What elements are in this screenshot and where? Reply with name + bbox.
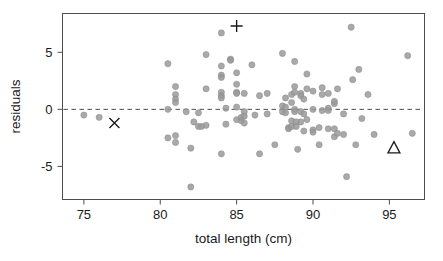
data-point (334, 130, 340, 136)
data-point (227, 57, 233, 63)
y-axis-tick-labels: -505 (41, 45, 53, 174)
x-marker-icon (109, 118, 119, 128)
data-point (234, 90, 240, 96)
plot-border (63, 14, 425, 200)
data-point (298, 119, 304, 125)
data-point (195, 110, 201, 116)
data-point (344, 174, 350, 180)
data-point (81, 112, 87, 118)
plot-canvas: 7580859095 -505 total length (cm) residu… (0, 0, 443, 261)
data-point (191, 119, 197, 125)
data-point (310, 129, 316, 135)
data-point (172, 139, 178, 145)
data-point (331, 98, 337, 104)
data-point (325, 107, 331, 113)
data-point (295, 146, 301, 152)
data-point (293, 123, 299, 129)
data-point (96, 114, 102, 120)
data-point (371, 131, 377, 137)
data-point (183, 109, 189, 115)
data-point (316, 125, 322, 131)
y-axis-title: residuals (8, 79, 23, 133)
data-point (252, 112, 258, 118)
x-tick-label: 85 (229, 207, 243, 222)
data-point (218, 151, 224, 157)
data-point (304, 86, 310, 92)
data-point (325, 90, 331, 96)
x-axis-title: total length (cm) (195, 231, 292, 246)
x-tick-label: 80 (153, 207, 167, 222)
data-point (365, 91, 371, 97)
data-point (289, 99, 295, 105)
data-point (172, 83, 178, 89)
data-point (241, 113, 247, 119)
residual-scatter-figure: 7580859095 -505 total length (cm) residu… (0, 0, 443, 261)
x-tick-label: 95 (382, 207, 396, 222)
data-point (282, 104, 288, 110)
data-point (304, 117, 310, 123)
data-point (218, 63, 224, 69)
data-point (264, 111, 270, 117)
data-point (359, 115, 365, 121)
data-point (292, 89, 298, 95)
data-point (241, 90, 247, 96)
data-point (409, 130, 415, 136)
data-point (272, 142, 278, 148)
data-point (292, 109, 298, 115)
data-point (319, 91, 325, 97)
y-tick-label: 0 (45, 102, 52, 117)
data-point (334, 86, 340, 92)
data-point (319, 107, 325, 113)
data-point (188, 145, 194, 151)
data-point (165, 135, 171, 141)
special-markers-group (109, 20, 399, 153)
data-point (256, 93, 262, 99)
data-point (348, 24, 354, 30)
data-point (223, 121, 229, 127)
data-point (350, 77, 356, 83)
y-tick-label: 5 (45, 45, 52, 60)
data-point (316, 142, 322, 148)
data-point (325, 126, 331, 132)
plus-marker-icon (231, 20, 243, 32)
data-point (188, 184, 194, 190)
data-point (203, 51, 209, 57)
data-point (264, 90, 270, 96)
data-point (234, 70, 240, 76)
x-axis-tick-labels: 7580859095 (77, 207, 397, 222)
y-tick-label: -5 (41, 159, 53, 174)
data-point (304, 71, 310, 77)
data-point (234, 104, 240, 110)
x-tick-label: 90 (306, 207, 320, 222)
data-point (301, 128, 307, 134)
data-point (172, 99, 178, 105)
data-point (234, 81, 240, 87)
data-point (203, 122, 209, 128)
data-point (292, 58, 298, 64)
data-point (282, 110, 288, 116)
data-point (319, 85, 325, 91)
data-point (165, 61, 171, 67)
data-point (292, 83, 298, 89)
data-point (340, 111, 346, 117)
data-point (340, 131, 346, 137)
data-point (218, 74, 224, 80)
data-point (310, 88, 316, 94)
data-points-group (81, 24, 416, 190)
data-point (218, 30, 224, 36)
data-point (356, 66, 362, 72)
data-point (301, 111, 307, 117)
data-point (172, 133, 178, 139)
data-point (218, 95, 224, 101)
x-tick-label: 75 (77, 207, 91, 222)
data-point (256, 151, 262, 157)
data-point (282, 95, 288, 101)
triangle-marker-icon (388, 142, 400, 153)
data-point (310, 106, 316, 112)
plot-frame (63, 14, 425, 200)
data-point (223, 105, 229, 111)
data-point (301, 96, 307, 102)
data-point (279, 50, 285, 56)
data-point (203, 86, 209, 92)
data-point (165, 106, 171, 112)
